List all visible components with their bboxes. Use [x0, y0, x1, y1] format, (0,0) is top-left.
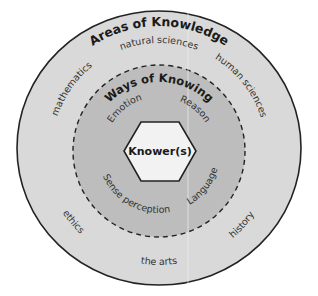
aok-the-arts: the arts: [140, 255, 177, 267]
knower-label: Knower(s): [128, 145, 192, 158]
tok-knowledge-diagram: Areas of Knowledge natural sciences huma…: [0, 0, 318, 296]
